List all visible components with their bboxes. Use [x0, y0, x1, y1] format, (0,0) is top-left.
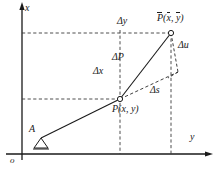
guide-lines-group — [22, 30, 171, 154]
y-axis-arrowhead — [205, 151, 213, 156]
delta-y-label: Δy — [117, 16, 127, 26]
figure-canvas: x y o Δy Δx ΔP Δs Δu P(x, y) P(x, y) A — [0, 0, 218, 177]
delta-u-group — [168, 33, 178, 78]
point-A-label: A — [29, 124, 35, 134]
point-P-label-suffix: ) — [135, 103, 138, 114]
point-P-bar-label: P(x, y) — [157, 13, 184, 23]
delta-u-label: Δu — [178, 40, 189, 50]
x-axis-arrowhead — [19, 2, 24, 10]
y-axis-label: y — [190, 132, 194, 142]
point-P-bar-label-y: y — [176, 13, 180, 23]
segment-delta-u — [171, 33, 178, 72]
delta-s-group — [120, 72, 178, 99]
body-line-group — [41, 99, 120, 138]
point-P-bar-label-x: x — [166, 13, 170, 23]
segment-A-to-P — [41, 99, 120, 138]
axes-group — [6, 2, 213, 160]
point-P-label: P(x, y) — [112, 104, 139, 114]
segment-delta-s — [120, 72, 178, 99]
diagram-svg — [0, 0, 218, 177]
segment-delta-u-closure — [168, 72, 178, 78]
point-P-marker — [117, 96, 122, 101]
delta-x-label: Δx — [93, 66, 103, 76]
delta-P-label: ΔP — [112, 52, 124, 62]
point-P-bar-label-close: ) — [180, 12, 183, 23]
origin-label: o — [10, 156, 15, 165]
segment-delta-P — [120, 33, 171, 99]
delta-P-group — [120, 33, 171, 99]
point-A-support-triangle — [34, 138, 48, 148]
x-axis-label: x — [25, 3, 29, 13]
point-P-bar-marker — [168, 30, 173, 35]
delta-s-label: Δs — [150, 85, 160, 95]
point-P-bar-label-prefix: P — [157, 13, 163, 23]
